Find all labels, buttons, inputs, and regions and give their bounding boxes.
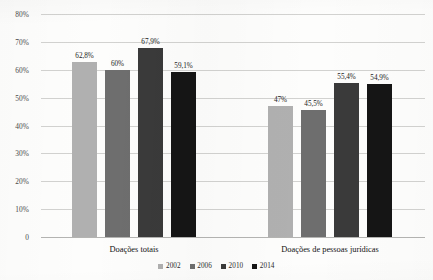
gridline-80pct [41, 14, 425, 15]
y-axis-tick-label: 60% [0, 65, 29, 74]
legend-label: 2006 [197, 262, 212, 270]
legend-item-2010[interactable]: 2010 [221, 262, 243, 270]
bar: 45,5% [301, 110, 326, 237]
gridline-70pct [41, 42, 425, 43]
bar: 54,9% [367, 84, 392, 237]
bar-value-label: 47% [274, 96, 287, 104]
x-axis-category-label: Doações de pessoas jurídicas [281, 245, 378, 254]
legend-swatch-icon [252, 264, 257, 269]
gridline-60pct [41, 70, 425, 71]
y-axis-tick-label: 80% [0, 10, 29, 19]
plot-area: 010%20%30%40%50%60%70%80% 62,8%60%67,9%5… [41, 14, 425, 237]
legend-label: 2014 [260, 262, 275, 270]
y-axis-tick-label: 40% [0, 121, 29, 130]
bar: 60% [105, 70, 130, 237]
legend-swatch-icon [158, 264, 163, 269]
x-axis-category-label: Doações totais [109, 245, 158, 254]
bar-value-label: 62,8% [75, 52, 93, 60]
bar: 62,8% [72, 62, 97, 237]
bar: 67,9% [138, 48, 163, 237]
bar-value-label: 59,1% [174, 62, 192, 70]
y-axis-tick-label: 0 [0, 233, 29, 242]
bar-value-label: 67,9% [141, 38, 159, 46]
legend-item-2014[interactable]: 2014 [252, 262, 274, 270]
chart-figure: 010%20%30%40%50%60%70%80% 62,8%60%67,9%5… [0, 0, 433, 280]
legend-swatch-icon [190, 264, 195, 269]
bar-value-label: 45,5% [304, 100, 322, 108]
bar-value-label: 60% [111, 60, 124, 68]
legend-swatch-icon [221, 264, 226, 269]
y-axis-tick-label: 10% [0, 205, 29, 214]
legend-label: 2010 [229, 262, 244, 270]
legend-item-2002[interactable]: 2002 [158, 262, 180, 270]
bar: 59,1% [171, 72, 196, 237]
y-axis-tick-label: 70% [0, 37, 29, 46]
y-axis-tick-label: 50% [0, 93, 29, 102]
legend-label: 2002 [166, 262, 181, 270]
chart-legend: 2002200620102014 [0, 262, 433, 270]
bar-value-label: 54,9% [370, 74, 388, 82]
y-axis-tick-label: 20% [0, 177, 29, 186]
gridline-0 [41, 237, 425, 238]
bar-value-label: 55,4% [337, 73, 355, 81]
y-axis-tick-label: 30% [0, 149, 29, 158]
bar: 47% [268, 106, 293, 237]
bar: 55,4% [334, 83, 359, 237]
legend-item-2006[interactable]: 2006 [190, 262, 212, 270]
